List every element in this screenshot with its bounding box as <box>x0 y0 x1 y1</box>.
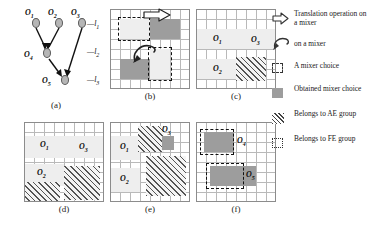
caption-b: (b) <box>110 91 190 101</box>
legend-item-rotation: on a mixer <box>272 35 367 53</box>
caption-c: (c) <box>196 91 276 101</box>
caption-d: (d) <box>24 204 104 214</box>
caption-a: (a) <box>8 100 104 110</box>
caption-f: (f) <box>196 204 276 214</box>
grid-f: O4 O5 <box>196 122 276 202</box>
figure-root: O1 O2 O3 O4 O5 —l1 —l2 —l3 (a) <box>0 0 367 236</box>
level-label-l3: —l3 <box>87 75 99 86</box>
legend-item-mixer-choice: A mixer choice <box>272 60 367 78</box>
level-label-l2: —l2 <box>87 47 99 58</box>
right-arrow-outline-icon <box>272 11 290 26</box>
right-arrow-outline-icon <box>143 8 173 22</box>
legend-item-translation: Translation operation on a mixer <box>272 10 367 28</box>
node-label-o4: O4 <box>24 50 33 61</box>
node-o5[interactable] <box>61 75 69 85</box>
node-label-o3: O3 <box>71 8 80 19</box>
panel-b: (b) <box>110 9 190 89</box>
node-o4[interactable] <box>43 48 51 58</box>
curved-arrow-icon <box>272 36 290 51</box>
dashed-square-icon <box>272 61 290 76</box>
node-o1[interactable] <box>32 18 40 28</box>
node-o3[interactable] <box>78 18 86 28</box>
grid-e: O1 O3 O2 <box>110 122 190 202</box>
node-label-o5: O5 <box>42 76 51 87</box>
gray-square-icon <box>272 86 290 101</box>
dotted-square-icon <box>272 136 290 151</box>
panel-d: O1 O3 O2 (d) <box>24 122 104 202</box>
level-label-l1: —l1 <box>87 19 99 30</box>
legend-item-fe-group: Belongs to FE group <box>272 135 367 153</box>
panel-a: O1 O2 O3 O4 O5 —l1 —l2 —l3 (a) <box>8 6 104 98</box>
legend-label-fe-group: Belongs to FE group <box>294 135 367 144</box>
node-label-o2: O2 <box>48 8 57 19</box>
legend-label-obtained-choice: Obtained mixer choice <box>294 85 367 94</box>
node-o2[interactable] <box>55 18 63 28</box>
panel-e: O1 O3 O2 (e) <box>110 122 190 202</box>
panel-f: O4 O5 (f) <box>196 122 276 202</box>
legend-label-translation: Translation operation on a mixer <box>294 10 367 27</box>
legend-label-rotation: on a mixer <box>294 35 367 49</box>
legend: Translation operation on a mixer on a mi… <box>272 10 367 160</box>
curved-arrow-icon <box>132 41 158 65</box>
legend-label-ae-group: Belongs to AE group <box>294 110 367 119</box>
node-label-o1: O1 <box>25 8 34 19</box>
grid-d: O1 O3 O2 <box>24 122 104 202</box>
grid-c: O1 O3 O2 <box>196 9 276 89</box>
legend-item-ae-group: Belongs to AE group <box>272 110 367 128</box>
panel-c: O1 O3 O2 (c) <box>196 9 276 89</box>
legend-item-obtained-choice: Obtained mixer choice <box>272 85 367 103</box>
legend-label-mixer-choice: A mixer choice <box>294 60 367 71</box>
hatched-square-icon <box>272 111 290 126</box>
caption-e: (e) <box>110 204 190 214</box>
